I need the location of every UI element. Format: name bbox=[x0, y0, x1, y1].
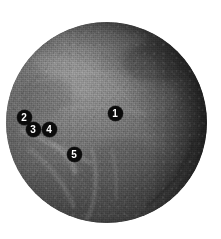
callout-marker-5[interactable]: 5 bbox=[67, 147, 82, 162]
callout-marker-4[interactable]: 4 bbox=[42, 122, 57, 137]
callout-marker-1[interactable]: 1 bbox=[108, 106, 123, 121]
callout-marker-5-label: 5 bbox=[71, 149, 77, 160]
callout-marker-3-label: 3 bbox=[30, 124, 36, 135]
callout-marker-4-label: 4 bbox=[46, 124, 52, 135]
callout-marker-1-label: 1 bbox=[112, 108, 118, 119]
callout-marker-2-label: 2 bbox=[21, 112, 27, 123]
figure-root: 1 2 3 4 5 bbox=[0, 0, 221, 239]
callout-marker-3[interactable]: 3 bbox=[26, 122, 41, 137]
